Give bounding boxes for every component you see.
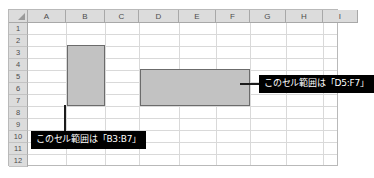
row-header-column: 1 2 3 4 5 6 7 8 9 10 11 12	[9, 23, 28, 167]
select-all-corner[interactable]	[9, 10, 28, 23]
gridline-row-1	[28, 34, 337, 35]
column-header-i[interactable]: I	[323, 10, 358, 23]
row-header-11[interactable]: 11	[9, 143, 28, 155]
row-header-2[interactable]: 2	[9, 35, 28, 47]
row-header-3[interactable]: 3	[9, 47, 28, 59]
row-header-8[interactable]: 8	[9, 107, 28, 119]
column-header-c[interactable]: C	[105, 10, 139, 23]
column-header-b[interactable]: B	[66, 10, 105, 23]
select-all-triangle-icon	[18, 13, 25, 20]
column-header-h[interactable]: H	[286, 10, 323, 23]
column-header-row: A B C D E F G H I	[9, 10, 358, 23]
column-header-g[interactable]: G	[250, 10, 286, 23]
row-header-1[interactable]: 1	[9, 23, 28, 35]
column-header-e[interactable]: E	[179, 10, 216, 23]
row-header-7[interactable]: 7	[9, 95, 28, 107]
row-header-6[interactable]: 6	[9, 83, 28, 95]
column-header-d[interactable]: D	[139, 10, 179, 23]
selection-rect-d5-f7[interactable]	[140, 69, 250, 106]
row-header-10[interactable]: 10	[9, 131, 28, 143]
callout-b3-b7: このセル範囲は「B3:B7」	[31, 131, 146, 149]
gridline-row-7	[28, 106, 337, 107]
gridline-row-8	[28, 118, 337, 119]
row-header-9[interactable]: 9	[9, 119, 28, 131]
row-header-5[interactable]: 5	[9, 71, 28, 83]
gridline-row-11	[28, 154, 337, 155]
leader-line-b3-b7	[64, 105, 66, 133]
gridline-col-f	[250, 23, 251, 165]
selection-rect-b3-b7[interactable]	[67, 45, 105, 106]
gridline-col-h	[323, 23, 324, 165]
callout-d5-f7: このセル範囲は「D5:F7」	[259, 75, 374, 93]
gridline-col-g	[286, 23, 287, 165]
column-header-f[interactable]: F	[216, 10, 250, 23]
row-header-12[interactable]: 12	[9, 155, 28, 167]
column-header-a[interactable]: A	[28, 10, 66, 23]
row-header-4[interactable]: 4	[9, 59, 28, 71]
